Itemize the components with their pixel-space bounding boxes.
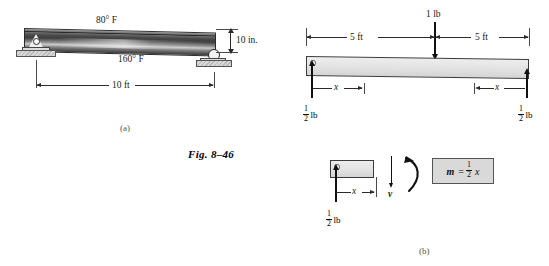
- right-reaction-denominator: 2: [518, 114, 524, 123]
- right-reaction-unit: lb: [524, 110, 533, 120]
- left-reaction-denominator: 2: [303, 114, 309, 123]
- span-arrow-right-icon: [209, 83, 214, 87]
- section-x-label: x: [352, 187, 356, 197]
- depth-arrow-down-icon: [228, 49, 234, 54]
- panel-b-tag: (b): [419, 246, 430, 256]
- section-x-tick: [376, 177, 377, 197]
- section-x-dim-line-a: [336, 192, 351, 193]
- panel-a-tag: (a): [120, 123, 130, 133]
- right-reaction-arrow-icon: [524, 68, 530, 74]
- panel-b-section-diagram: x 1 2 lb v m = 1 2 x (b): [290, 140, 549, 266]
- section-reaction-numerator: 1: [326, 210, 332, 218]
- applied-load-label: 1 lb: [426, 10, 441, 20]
- span-dim-line-right: [135, 85, 213, 86]
- figure-caption: Fig. 8–46: [188, 148, 234, 160]
- span-arrow-left-icon: [36, 83, 41, 87]
- right-span-label: 5 ft: [475, 33, 488, 43]
- depth-dimension-label: 10 in.: [236, 36, 258, 46]
- top-temperature-label: 80° F: [96, 16, 117, 26]
- pin-base-plate: [16, 50, 56, 57]
- moment-coefficient-fraction: 1 2: [466, 161, 472, 179]
- dim-arrow-center-right-icon: [435, 35, 440, 39]
- moment-variable: x: [472, 166, 479, 177]
- moment-equals-sign: =: [456, 166, 466, 177]
- right-reaction-label: 1 2 lb: [518, 105, 533, 124]
- dim-arrow-left-icon: [306, 35, 311, 39]
- left-reaction-unit: lb: [309, 110, 318, 120]
- span-dimension: 10 ft: [20, 60, 250, 100]
- shear-label: v: [388, 190, 392, 200]
- panel-b-free-body-diagram: 1 lb 5 ft 5 ft: [290, 0, 549, 140]
- moment-equation-box: m = 1 2 x: [432, 158, 494, 184]
- span-dimension-label: 10 ft: [112, 81, 130, 91]
- moment-numerator: 1: [466, 161, 472, 169]
- left-span-label: 5 ft: [350, 33, 363, 43]
- span-dimension-left: 5 ft: [290, 28, 440, 48]
- shear-arrow-shaft: [391, 156, 392, 186]
- span-ext-right: [214, 72, 215, 88]
- x-left-label: x: [334, 83, 338, 93]
- section-reaction-label: 1 2 lb: [326, 210, 341, 229]
- pin-support: [16, 34, 62, 62]
- figure-8-46: 80° F 160° F 10: [0, 0, 549, 266]
- beam-b-body: [306, 56, 529, 79]
- pin-hole-icon: [33, 38, 40, 45]
- panel-a: 80° F 160° F 10: [0, 0, 290, 140]
- span-dim-line-left: [37, 85, 109, 86]
- left-reaction-label: 1 2 lb: [303, 105, 318, 124]
- dim-line-5ft-right-a: [436, 37, 471, 38]
- x-left-dim-line-a: [313, 88, 332, 89]
- dim-arrow-right-icon: [524, 35, 529, 39]
- left-reaction-arrow-icon: [309, 60, 315, 66]
- distance-x-right: x: [472, 82, 532, 96]
- section-reaction-denominator: 2: [326, 219, 332, 228]
- shear-arrow-icon: [389, 183, 393, 188]
- right-reaction-fraction: 1 2: [518, 105, 524, 123]
- section-reaction-fraction: 1 2: [326, 210, 332, 228]
- x-right-dim-line-a: [480, 88, 494, 89]
- x-right-label: x: [495, 83, 499, 93]
- moment-denominator: 2: [466, 170, 472, 179]
- section-reaction-arrow-icon: [333, 164, 339, 170]
- section-reaction-unit: lb: [332, 215, 341, 225]
- section-x-arrow-icon: [370, 190, 375, 194]
- section-distance-x: x: [332, 186, 388, 200]
- dim-ext-right: [529, 28, 530, 46]
- moment-symbol: m: [447, 166, 457, 177]
- right-reaction-numerator: 1: [518, 105, 524, 113]
- moment-curved-arrow-icon: [402, 154, 428, 196]
- distance-x-left: x: [308, 82, 374, 96]
- x-right-dim-line-b: [504, 88, 525, 89]
- left-reaction-numerator: 1: [303, 105, 309, 113]
- dim-line-5ft-left-b: [378, 37, 435, 38]
- span-dimension-right: 5 ft: [435, 28, 549, 48]
- x-left-tick: [364, 83, 365, 94]
- x-left-arrow-icon: [358, 86, 363, 90]
- left-reaction-fraction: 1 2: [303, 105, 309, 123]
- dim-line-5ft-left-a: [307, 37, 347, 38]
- depth-arrow-up-icon: [228, 28, 234, 33]
